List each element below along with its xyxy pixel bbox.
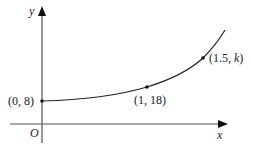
point-label-suffix: )	[239, 51, 243, 65]
exponential-curve	[42, 30, 225, 101]
graph-canvas: y x O (0, 8) (1, 18) (1.5, k)	[0, 0, 253, 149]
point-1.5-k	[201, 56, 205, 60]
point-label-1-18: (1, 18)	[134, 93, 166, 107]
x-axis-label: x	[216, 128, 223, 142]
point-0-8	[40, 99, 44, 103]
point-label-1.5-k: (1.5, k)	[209, 51, 243, 65]
point-label-0-8: (0, 8)	[8, 94, 34, 108]
x-axis-arrow-icon	[218, 120, 228, 128]
point-1-18	[145, 85, 149, 89]
y-axis-label: y	[28, 4, 35, 18]
y-axis-arrow-icon	[38, 6, 46, 16]
origin-label: O	[30, 126, 39, 140]
point-label-prefix: (1.5,	[209, 51, 234, 65]
